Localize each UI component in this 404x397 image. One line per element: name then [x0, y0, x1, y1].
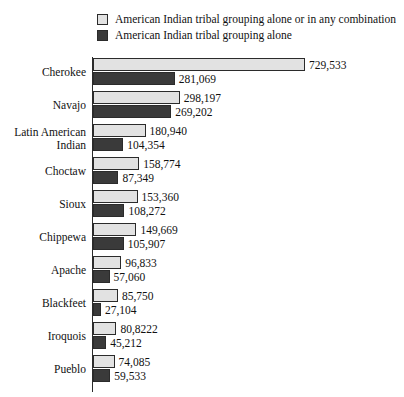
- bar-row: 108,272: [93, 204, 166, 217]
- bar-group: Cherokee729,533281,069: [0, 57, 404, 87]
- bar-value-label: 281,069: [179, 73, 216, 85]
- bar-group: Choctaw158,77487,349: [0, 156, 404, 186]
- bar-row: 149,669: [93, 223, 178, 236]
- bar-group: Iroquois80,822245,212: [0, 321, 404, 351]
- bar-alone[interactable]: [93, 336, 106, 349]
- category-label: Navajo: [0, 99, 86, 112]
- bar-alone[interactable]: [93, 369, 110, 382]
- bar-row: 87,349: [93, 171, 154, 184]
- bar-value-label: 87,349: [122, 172, 154, 184]
- bar-row: 269,202: [93, 105, 213, 118]
- bar-row: 158,774: [93, 157, 181, 170]
- bar-row: 74,085: [93, 355, 150, 368]
- bar-group: Blackfeet85,75027,104: [0, 288, 404, 318]
- category-label: Iroquois: [0, 330, 86, 343]
- bar-combination[interactable]: [93, 256, 121, 269]
- bar-group: Chippewa149,669105,907: [0, 222, 404, 252]
- bar-alone[interactable]: [93, 237, 124, 250]
- bar-value-label: 85,750: [122, 290, 154, 302]
- bar-row: 298,197: [93, 91, 221, 104]
- category-label: Pueblo: [0, 363, 86, 376]
- bar-value-label: 158,774: [143, 158, 180, 170]
- bar-value-label: 180,940: [150, 125, 187, 137]
- bar-value-label: 108,272: [128, 205, 165, 217]
- bar-combination[interactable]: [93, 124, 146, 137]
- bar-value-label: 105,907: [128, 238, 165, 250]
- category-label: Cherokee: [0, 66, 86, 79]
- bar-value-label: 74,085: [119, 356, 151, 368]
- bar-row: 80,8222: [93, 322, 158, 335]
- bar-value-label: 59,533: [114, 370, 146, 382]
- bar-combination[interactable]: [93, 223, 136, 236]
- bar-value-label: 45,212: [110, 337, 142, 349]
- bar-combination[interactable]: [93, 355, 115, 368]
- bar-alone[interactable]: [93, 204, 124, 217]
- bar-value-label: 80,8222: [120, 323, 157, 335]
- legend-item-combination: American Indian tribal grouping alone or…: [97, 13, 396, 25]
- legend-item-alone: American Indian tribal grouping alone: [97, 29, 396, 41]
- bar-group: Pueblo74,08559,533: [0, 354, 404, 384]
- bar-value-label: 298,197: [184, 92, 221, 104]
- bar-group: Sioux153,360108,272: [0, 189, 404, 219]
- bar-combination[interactable]: [93, 190, 138, 203]
- legend-label-combination: American Indian tribal grouping alone or…: [115, 13, 396, 25]
- bar-row: 85,750: [93, 289, 154, 302]
- bar-alone[interactable]: [93, 72, 175, 85]
- category-label: Blackfeet: [0, 297, 86, 310]
- legend-label-alone: American Indian tribal grouping alone: [115, 29, 292, 41]
- bar-row: 105,907: [93, 237, 165, 250]
- bar-alone[interactable]: [93, 171, 118, 184]
- bar-row: 104,354: [93, 138, 165, 151]
- bar-value-label: 57,060: [114, 271, 146, 283]
- bar-row: 153,360: [93, 190, 179, 203]
- bar-value-label: 149,669: [140, 224, 177, 236]
- bar-alone[interactable]: [93, 138, 123, 151]
- category-label: Latin American Indian: [0, 126, 86, 151]
- bar-combination[interactable]: [93, 157, 139, 170]
- bar-row: 96,833: [93, 256, 157, 269]
- bar-row: 281,069: [93, 72, 216, 85]
- bar-value-label: 27,104: [105, 304, 137, 316]
- bar-alone[interactable]: [93, 303, 101, 316]
- bar-value-label: 153,360: [142, 191, 179, 203]
- bar-value-label: 104,354: [127, 139, 164, 151]
- legend-swatch-dark: [97, 30, 108, 41]
- bar-row: 45,212: [93, 336, 142, 349]
- bar-row: 57,060: [93, 270, 145, 283]
- bar-combination[interactable]: [93, 289, 118, 302]
- bar-value-label: 96,833: [125, 257, 157, 269]
- bar-chart-plot: Cherokee729,533281,069Navajo298,197269,2…: [0, 55, 404, 397]
- category-label: Apache: [0, 264, 86, 277]
- bar-group: Latin American Indian180,940104,354: [0, 123, 404, 153]
- bar-alone[interactable]: [93, 270, 110, 283]
- bar-group: Navajo298,197269,202: [0, 90, 404, 120]
- bar-row: 729,533: [93, 58, 346, 71]
- category-label: Sioux: [0, 198, 86, 211]
- category-label: Chippewa: [0, 231, 86, 244]
- bar-combination[interactable]: [93, 58, 305, 71]
- legend-swatch-light: [97, 14, 108, 25]
- category-label: Choctaw: [0, 165, 86, 178]
- bar-value-label: 269,202: [175, 106, 212, 118]
- bar-combination[interactable]: [93, 322, 116, 335]
- bar-row: 27,104: [93, 303, 137, 316]
- bar-alone[interactable]: [93, 105, 171, 118]
- bar-combination[interactable]: [93, 91, 180, 104]
- bar-value-label: 729,533: [309, 59, 346, 71]
- bar-row: 59,533: [93, 369, 146, 382]
- chart-legend: American Indian tribal grouping alone or…: [97, 13, 396, 41]
- bar-row: 180,940: [93, 124, 187, 137]
- bar-group: Apache96,83357,060: [0, 255, 404, 285]
